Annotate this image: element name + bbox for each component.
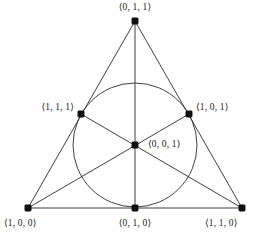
point-label-left-mid: ⟨1, 1, 1⟩ xyxy=(22,102,74,113)
median-bottom-left-to-right-mid xyxy=(28,114,189,208)
point-label-bottom-right: ⟨1, 1, 0⟩ xyxy=(205,218,238,229)
point-label-centroid: ⟨0, 0, 1⟩ xyxy=(148,139,181,150)
point-dot-top xyxy=(132,18,138,24)
point-dot-right-mid xyxy=(186,111,192,117)
figure-root: ⟨0, 1, 1⟩ ⟨1, 1, 1⟩ ⟨1, 0, 1⟩ ⟨0, 0, 1⟩ … xyxy=(0,0,275,239)
point-label-bottom-mid: ⟨0, 1, 0⟩ xyxy=(110,218,160,229)
point-label-right-mid: ⟨1, 0, 1⟩ xyxy=(196,102,229,113)
point-dot-left-mid xyxy=(78,111,84,117)
triangle-incircle-diagram xyxy=(0,0,275,239)
point-dot-bottom-right xyxy=(239,205,245,211)
point-label-bottom-left: ⟨1, 0, 0⟩ xyxy=(4,218,37,229)
median-bottom-right-to-left-mid xyxy=(81,114,242,208)
point-dot-bottom-mid xyxy=(132,205,138,211)
point-dot-centroid xyxy=(132,142,138,148)
point-dot-bottom-left xyxy=(25,205,31,211)
point-label-top: ⟨0, 1, 1⟩ xyxy=(110,2,160,13)
